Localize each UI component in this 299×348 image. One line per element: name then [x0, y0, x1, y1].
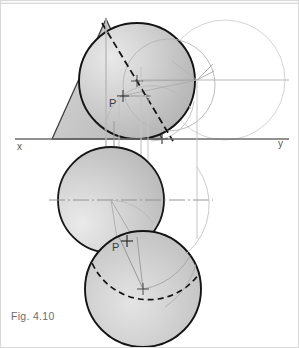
figure-caption: Fig. 4.10: [11, 310, 55, 322]
technical-drawing-canvas: [1, 1, 299, 348]
figure-page: x y P P Fig. 4.10: [0, 0, 299, 348]
point-label-p-front-view: P: [109, 97, 117, 109]
construction-arc-right-lower: [187, 167, 209, 253]
point-label-p-top-view: P: [112, 241, 120, 253]
axis-label-y: y: [278, 138, 283, 149]
axis-label-x: x: [17, 141, 22, 152]
